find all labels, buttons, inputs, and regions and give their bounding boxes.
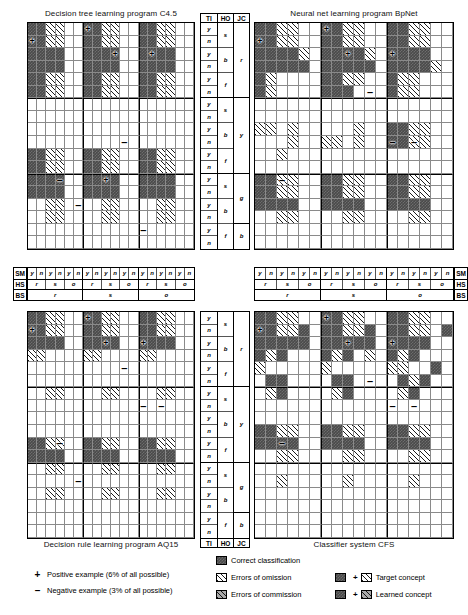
heatmap-cell — [431, 438, 442, 451]
vertical-axis-jc-label: y — [234, 98, 249, 173]
horizontal-axis-sm-label: n — [420, 268, 431, 279]
heatmap-cell — [93, 174, 102, 187]
heatmap-cell — [111, 375, 120, 388]
heatmap-cell — [185, 23, 194, 36]
heatmap-cell — [354, 98, 365, 111]
heatmap-cell — [185, 86, 194, 99]
heatmap-cell — [37, 463, 46, 476]
heatmap-cell — [74, 73, 83, 86]
heatmap-cell — [111, 86, 120, 99]
heatmap-cell — [46, 513, 55, 526]
heatmap-cell — [376, 362, 387, 375]
heatmap-cell — [120, 400, 129, 413]
heatmap-cell — [166, 149, 175, 162]
heatmap-cell — [387, 475, 398, 488]
vertical-axis-jc-label: b — [234, 224, 249, 249]
heatmap-cell — [376, 450, 387, 463]
heatmap-cell — [139, 123, 148, 136]
heatmap-cell — [129, 61, 138, 74]
heatmap-cell — [65, 362, 74, 375]
heatmap-cell — [442, 86, 453, 99]
heatmap-cell — [266, 61, 277, 74]
heatmap-cell — [354, 186, 365, 199]
heatmap-cell — [420, 161, 431, 174]
heatmap-cell — [74, 312, 83, 325]
heatmap-cell — [83, 61, 92, 74]
heatmap-cell: – — [74, 475, 83, 488]
learned-concept-correct-swatch-icon — [335, 590, 346, 599]
heatmap-cell — [332, 425, 343, 438]
heatmap-cell — [129, 111, 138, 124]
heatmap-cell — [387, 450, 398, 463]
heatmap-cell — [277, 236, 288, 249]
legend-commission-label: Errors of commission — [231, 590, 301, 599]
heatmap-cell — [299, 412, 310, 425]
positive-example-marker: + — [257, 326, 262, 335]
heatmap-cell — [409, 111, 420, 124]
heatmap-cell — [398, 400, 409, 413]
heatmap-cell — [442, 387, 453, 400]
heatmap-cell — [93, 513, 102, 526]
heatmap-cell — [166, 86, 175, 99]
heatmap-cell — [56, 375, 65, 388]
heatmap-cell — [420, 475, 431, 488]
heatmap-cell — [28, 23, 37, 36]
heatmap-cell — [332, 236, 343, 249]
heatmap-cell — [288, 438, 299, 451]
heatmap-cell — [111, 463, 120, 476]
heatmap-cell — [387, 174, 398, 187]
heatmap-cell — [65, 211, 74, 224]
heatmap-cell — [409, 450, 420, 463]
heatmap-cell — [299, 211, 310, 224]
heatmap-cell — [332, 438, 343, 451]
heatmap-cell: – — [139, 400, 148, 413]
heatmap-cell — [321, 450, 332, 463]
heatmap-cell — [431, 500, 442, 513]
heatmap-cell — [288, 350, 299, 363]
heatmap-cell — [185, 48, 194, 61]
heatmap-cell — [266, 513, 277, 526]
heatmap-cell — [93, 236, 102, 249]
heatmap-cell — [255, 149, 266, 162]
heatmap-cell — [354, 375, 365, 388]
heatmap-cell — [299, 23, 310, 36]
horizontal-axis-sm-label: n — [376, 268, 387, 279]
vertical-axis-header-ti: TI — [201, 14, 217, 22]
heatmap-cell — [376, 412, 387, 425]
heatmap-cell — [387, 500, 398, 513]
heatmap-cell — [442, 98, 453, 111]
heatmap-cell — [120, 325, 129, 338]
horizontal-axis-sm-label: y — [255, 268, 266, 279]
heatmap-cell — [354, 224, 365, 237]
heatmap-cell — [321, 236, 332, 249]
vertical-axis-ti-label: y — [201, 48, 217, 61]
vertical-axis-ho-label: b — [218, 412, 233, 437]
heatmap-cell: – — [74, 199, 83, 212]
positive-example-marker: + — [85, 313, 90, 322]
heatmap-cell — [354, 136, 365, 149]
heatmap-cell — [65, 174, 74, 187]
heatmap-cell — [266, 149, 277, 162]
heatmap-cell — [129, 36, 138, 49]
horizontal-axis-sm-label: n — [354, 268, 365, 279]
heatmap-cell — [277, 375, 288, 388]
heatmap-cell — [74, 48, 83, 61]
heatmap-cell — [157, 475, 166, 488]
heatmap-cell — [266, 36, 277, 49]
heatmap-cell — [148, 73, 157, 86]
heatmap-cell — [387, 325, 398, 338]
heatmap-cell — [420, 362, 431, 375]
heatmap-cell — [409, 98, 420, 111]
heatmap-cell — [102, 36, 111, 49]
heatmap-cell — [310, 438, 321, 451]
heatmap-cell — [420, 86, 431, 99]
heatmap-cell — [129, 211, 138, 224]
heatmap-cell — [102, 362, 111, 375]
heatmap-cell — [65, 400, 74, 413]
heatmap-cell — [176, 211, 185, 224]
heatmap-cell — [365, 488, 376, 501]
heatmap-cell — [176, 362, 185, 375]
heatmap-cell — [37, 136, 46, 149]
heatmap-cell — [129, 23, 138, 36]
heatmap-cell — [354, 500, 365, 513]
